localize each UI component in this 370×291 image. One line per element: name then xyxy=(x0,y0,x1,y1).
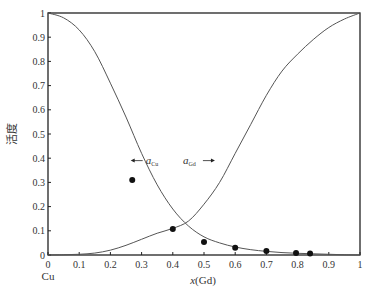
annotation-cu: aCu xyxy=(146,154,159,167)
arrow-head xyxy=(211,159,215,163)
x-tick-label: 0.6 xyxy=(229,259,242,270)
y-axis-label: 活度 xyxy=(5,123,18,145)
x-tick-label: 0.3 xyxy=(135,259,148,270)
x-tick-label: 0.2 xyxy=(104,259,117,270)
y-tick-label: 0.5 xyxy=(33,129,46,140)
data-point xyxy=(307,251,313,257)
y-tick-label: 0.2 xyxy=(33,201,46,212)
x-left-label: Cu xyxy=(42,270,55,282)
data-point xyxy=(201,239,207,245)
x-tick-label: 1 xyxy=(358,259,363,270)
y-tick-label: 0 xyxy=(40,250,45,261)
y-tick-label: 0.1 xyxy=(33,225,46,236)
y-tick-label: 0.6 xyxy=(33,104,46,115)
x-tick-label: 0.9 xyxy=(323,259,336,270)
x-axis-label: x(Gd) xyxy=(189,274,216,287)
y-tick-label: 0.7 xyxy=(33,80,46,91)
x-tick-label: 0.8 xyxy=(291,259,304,270)
y-tick-label: 0.3 xyxy=(33,177,46,188)
x-tick-label: 0.4 xyxy=(167,259,180,270)
data-point xyxy=(129,177,135,183)
y-tick-label: 0.9 xyxy=(33,32,46,43)
data-point xyxy=(293,250,299,256)
data-point xyxy=(170,226,176,232)
arrow-head xyxy=(131,159,135,163)
y-tick-label: 0.8 xyxy=(33,56,46,67)
plot-frame xyxy=(48,13,360,255)
y-tick-label: 1 xyxy=(40,8,45,19)
x-tick-label: 0.1 xyxy=(73,259,86,270)
curve-a-gd xyxy=(48,13,360,255)
y-tick-label: 0.4 xyxy=(33,153,46,164)
curve-a-cu xyxy=(48,13,360,255)
annotation-gd: aGd xyxy=(183,154,196,167)
x-tick-label: 0 xyxy=(46,259,51,270)
data-point xyxy=(232,245,238,251)
data-point xyxy=(263,248,269,254)
x-tick-label: 0.5 xyxy=(198,259,211,270)
activity-chart: 00.10.20.30.40.50.60.70.80.9100.10.20.30… xyxy=(0,0,370,291)
x-tick-label: 0.7 xyxy=(260,259,273,270)
